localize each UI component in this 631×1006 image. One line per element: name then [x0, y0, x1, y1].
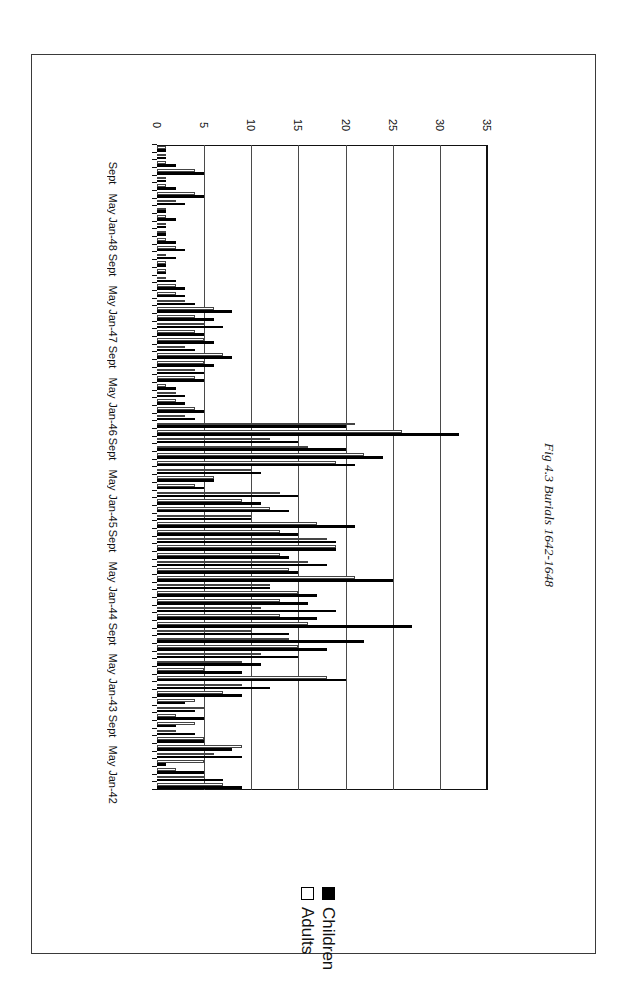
category-axis-label-sept: Sept [107, 145, 119, 201]
category-tick [152, 252, 157, 253]
category-tick [152, 758, 157, 759]
category-tick [152, 658, 157, 659]
category-tick [152, 697, 157, 698]
bar-children [157, 218, 176, 221]
bar-adults [157, 507, 270, 510]
bar-children [157, 356, 232, 359]
bar-children [157, 441, 298, 444]
value-axis-label-5: 5 [198, 108, 210, 142]
bar-children [157, 656, 298, 659]
bar-adults [157, 407, 195, 410]
bar-adults [157, 200, 176, 203]
gridline-15 [298, 145, 299, 790]
category-tick [152, 305, 157, 306]
bar-children [157, 525, 355, 528]
bar-adults [157, 499, 242, 502]
bar-adults [157, 292, 176, 295]
bar-adults [157, 691, 223, 694]
category-tick [152, 159, 157, 160]
category-tick [152, 443, 157, 444]
category-tick [152, 497, 157, 498]
bar-adults [157, 607, 261, 610]
bar-children [157, 564, 327, 567]
bar-adults [157, 423, 355, 426]
category-tick [152, 336, 157, 337]
category-tick [152, 589, 157, 590]
bar-adults [157, 722, 195, 725]
bar-adults [157, 438, 270, 441]
category-tick [152, 474, 157, 475]
chart-legend: Children Adults [297, 887, 339, 970]
bar-children [157, 295, 185, 298]
legend-item-children: Children [318, 887, 339, 970]
category-tick [152, 428, 157, 429]
bar-adults [157, 745, 242, 748]
value-axis-label-20: 20 [340, 108, 352, 142]
bar-children [157, 349, 195, 352]
category-tick [152, 597, 157, 598]
scanned-page: Fig 4.3 Burials 1642-1648 Children Adult… [0, 0, 631, 1006]
category-tick [152, 351, 157, 352]
bar-children [157, 272, 166, 275]
bar-adults [157, 307, 214, 310]
bar-children [157, 433, 459, 436]
bar-children [157, 187, 176, 190]
bar-adults [157, 630, 251, 633]
bar-adults [157, 169, 195, 172]
bar-children [157, 771, 204, 774]
gridline-30 [440, 145, 441, 790]
category-tick [152, 712, 157, 713]
bar-adults [157, 599, 280, 602]
value-axis-label-30: 30 [434, 108, 446, 142]
bar-adults [157, 584, 270, 587]
bar-adults [157, 522, 317, 525]
bar-children [157, 602, 308, 605]
bar-children [157, 518, 251, 521]
bar-children [157, 502, 261, 505]
bar-adults [157, 699, 195, 702]
legend-label-adults: Adults [298, 907, 318, 954]
bar-children [157, 702, 185, 705]
category-tick [152, 374, 157, 375]
bar-children [157, 533, 298, 536]
bar-children [157, 372, 204, 375]
category-tick [152, 413, 157, 414]
category-tick [152, 436, 157, 437]
category-tick [152, 482, 157, 483]
bar-children [157, 464, 355, 467]
bar-adults [157, 346, 185, 349]
bar-adults [157, 353, 223, 356]
bar-children [157, 571, 298, 574]
category-tick [152, 275, 157, 276]
bar-adults [157, 338, 204, 341]
bar-adults [157, 277, 166, 280]
bar-children [157, 310, 232, 313]
bar-children [157, 287, 185, 290]
bar-adults [157, 453, 364, 456]
bar-children [157, 495, 298, 498]
bar-adults [157, 760, 204, 763]
bar-children [157, 149, 166, 152]
category-tick [152, 781, 157, 782]
bar-children [157, 303, 195, 306]
bar-adults [157, 737, 204, 740]
category-tick [152, 144, 157, 145]
bar-children [157, 610, 336, 613]
category-tick [152, 467, 157, 468]
bar-children [157, 671, 242, 674]
category-tick [152, 628, 157, 629]
bar-children [157, 648, 327, 651]
category-tick [152, 290, 157, 291]
bar-adults [157, 576, 355, 579]
legend-swatch-children-icon [322, 887, 335, 900]
category-tick [152, 551, 157, 552]
bar-children [157, 257, 176, 260]
bar-children [157, 756, 242, 759]
category-tick [152, 766, 157, 767]
bar-adults [157, 446, 308, 449]
bar-adults [157, 484, 195, 487]
bar-children [157, 663, 261, 666]
category-tick [152, 505, 157, 506]
bar-children [157, 387, 176, 390]
bar-children [157, 203, 185, 206]
